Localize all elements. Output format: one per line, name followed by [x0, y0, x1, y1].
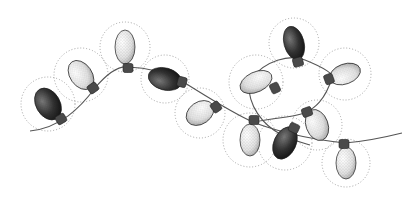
light-bulb-dark: [268, 122, 302, 163]
bulb-layer: [29, 24, 363, 179]
light-bulb-light: [336, 140, 356, 180]
christmas-lights-illustration: [0, 0, 414, 200]
light-bulb-light: [240, 116, 260, 157]
light-bulb-light: [323, 59, 363, 89]
light-bulb-dark: [29, 83, 67, 125]
bulb-socket: [339, 140, 349, 149]
light-bulb-light: [115, 30, 135, 73]
light-bulb-dark: [146, 64, 188, 94]
light-bulb-dark: [280, 24, 308, 68]
light-bulb-light: [181, 95, 222, 130]
light-bulb-light: [236, 66, 281, 98]
bulb-socket: [269, 82, 281, 95]
bulb-socket: [123, 64, 133, 73]
light-bulb-light: [63, 56, 100, 95]
light-bulb-light: [301, 106, 333, 144]
bulb-socket: [249, 116, 259, 125]
